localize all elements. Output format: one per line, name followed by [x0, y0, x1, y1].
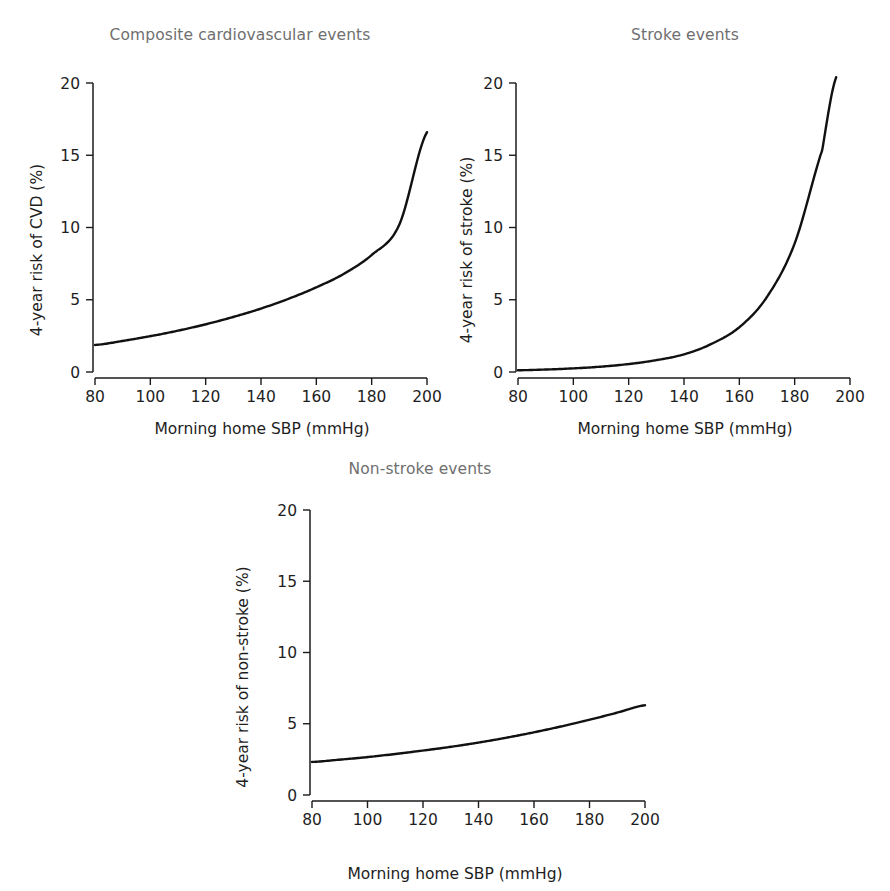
- panel-1-x-ticklabel: 80: [85, 388, 105, 406]
- panel-3-x-ticklabels: 80100120140160180200: [302, 811, 660, 829]
- panel-3-x-ticklabel: 160: [519, 811, 549, 829]
- panel-1-plot: 05101520 80100120140160180200: [60, 75, 442, 407]
- panel-2-x-ticklabel: 100: [559, 388, 589, 406]
- panel-2-y-ticklabel: 15: [483, 147, 503, 165]
- panel-3-risk-curve: [312, 705, 645, 762]
- panel-2-svg: Stroke events 05101520 80100120140160180…: [440, 22, 890, 462]
- panel-1-y-ticklabel: 5: [70, 291, 80, 309]
- panel-2-x-axis-label: Morning home SBP (mmHg): [577, 420, 792, 438]
- panel-3-y-ticklabel: 10: [277, 644, 297, 662]
- panel-3-y-ticks: [303, 510, 310, 795]
- panel-1-x-ticks: [95, 378, 427, 385]
- panel-3-x-axis-label: Morning home SBP (mmHg): [347, 865, 562, 883]
- panel-1-svg: Composite cardiovascular events 05101520…: [0, 22, 450, 462]
- panel-1-y-ticklabels: 05101520: [60, 75, 80, 382]
- panel-2-x-ticklabel: 120: [614, 388, 644, 406]
- panel-1-y-ticklabel: 20: [60, 75, 80, 93]
- panel-2-plot: 05101520 80100120140160180200: [483, 75, 865, 407]
- panel-3-x-ticklabel: 80: [302, 811, 322, 829]
- panel-2-y-ticklabel: 10: [483, 219, 503, 237]
- panel-1-y-ticklabel: 10: [60, 219, 80, 237]
- panel-1-x-ticklabel: 160: [302, 388, 332, 406]
- panel-1-x-ticklabels: 80100120140160180200: [85, 388, 442, 406]
- panel-1-y-axis-label: 4-year risk of CVD (%): [28, 164, 46, 336]
- panel-1-risk-curve: [95, 132, 427, 345]
- panel-2-x-ticklabel: 200: [835, 388, 865, 406]
- panel-3-x-ticklabel: 100: [353, 811, 383, 829]
- panel-1-title: Composite cardiovascular events: [110, 26, 371, 44]
- panel-2-x-ticklabel: 180: [780, 388, 810, 406]
- panel-2-y-ticklabels: 05101520: [483, 75, 503, 382]
- panel-3-x-ticks: [312, 801, 645, 808]
- panel-1-x-ticklabel: 140: [246, 388, 276, 406]
- panel-3-x-ticklabel: 180: [575, 811, 605, 829]
- panel-2-x-ticklabels: 80100120140160180200: [508, 388, 865, 406]
- panel-1-x-ticklabel: 100: [136, 388, 166, 406]
- panel-2-risk-curve: [518, 77, 836, 370]
- panel-1-x-axis-label: Morning home SBP (mmHg): [154, 420, 369, 438]
- panel-3-svg: Non-stroke events 05101520 8010012014016…: [215, 452, 675, 891]
- panel-3-title: Non-stroke events: [349, 460, 492, 478]
- panel-1-y-ticks: [86, 83, 93, 372]
- panel-2-x-ticklabel: 140: [669, 388, 699, 406]
- panel-1-x-ticklabel: 180: [357, 388, 387, 406]
- panel-1-x-ticklabel: 120: [191, 388, 221, 406]
- panel-3-y-axis-label: 4-year risk of non-stroke (%): [234, 566, 252, 787]
- panel-3-y-ticklabel: 20: [277, 502, 297, 520]
- panel-3-y-ticklabel: 15: [277, 573, 297, 591]
- panel-non-stroke-events: Non-stroke events 05101520 8010012014016…: [215, 452, 675, 891]
- panel-3-x-ticklabel: 140: [464, 811, 494, 829]
- panel-2-y-ticks: [509, 83, 516, 372]
- panel-1-y-ticklabel: 15: [60, 147, 80, 165]
- panel-2-x-ticklabel: 160: [725, 388, 755, 406]
- panel-2-y-ticklabel: 5: [493, 291, 503, 309]
- panel-composite-cardiovascular-events: Composite cardiovascular events 05101520…: [0, 22, 450, 462]
- panel-2-x-ticks: [518, 378, 850, 385]
- panel-3-x-ticklabel: 200: [630, 811, 660, 829]
- panel-2-y-ticklabel: 20: [483, 75, 503, 93]
- panel-2-y-axis-label: 4-year risk of stroke (%): [458, 157, 476, 344]
- panel-3-plot: 05101520 80100120140160180200: [277, 502, 660, 830]
- panel-3-y-ticklabel: 5: [287, 715, 297, 733]
- panel-2-x-ticklabel: 80: [508, 388, 528, 406]
- panel-2-y-ticklabel: 0: [493, 364, 503, 382]
- panel-3-y-ticklabels: 05101520: [277, 502, 297, 805]
- panel-3-y-ticklabel: 0: [287, 787, 297, 805]
- panel-3-x-ticklabel: 120: [408, 811, 438, 829]
- panel-1-x-ticklabel: 200: [412, 388, 442, 406]
- panel-1-y-ticklabel: 0: [70, 364, 80, 382]
- panel-2-title: Stroke events: [631, 26, 739, 44]
- risk-curves-figure: Composite cardiovascular events 05101520…: [0, 0, 890, 891]
- panel-stroke-events: Stroke events 05101520 80100120140160180…: [440, 22, 890, 462]
